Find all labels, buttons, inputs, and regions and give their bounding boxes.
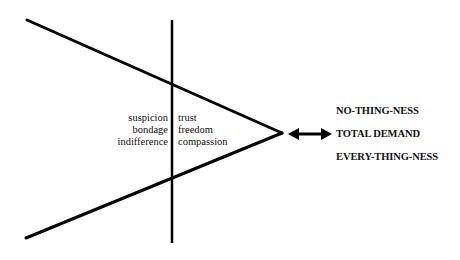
label-every-thing-ness: EVERY-THING-NESS: [336, 151, 438, 162]
label-trust: trust: [178, 112, 228, 124]
positive-qualities-list: trust freedom compassion: [178, 112, 228, 148]
label-indifference: indifference: [106, 136, 168, 148]
label-total-demand: TOTAL DEMAND: [336, 128, 420, 139]
label-compassion: compassion: [178, 136, 228, 148]
lower-converging-line: [26, 133, 282, 238]
label-bondage: bondage: [106, 124, 168, 136]
negative-qualities-list: suspicion bondage indifference: [106, 112, 168, 148]
label-freedom: freedom: [178, 124, 228, 136]
double-arrow-icon: [288, 128, 332, 140]
label-no-thing-ness: NO-THING-NESS: [336, 105, 419, 116]
label-suspicion: suspicion: [106, 112, 168, 124]
